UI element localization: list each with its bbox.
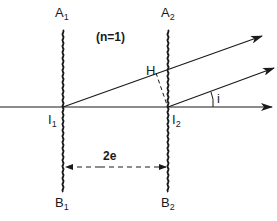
ray-from-i1 [63,36,262,107]
label-h: H [146,63,155,78]
angle-arc-i [211,92,213,107]
label-i1: I1 [48,112,57,129]
diagram-canvas: A1 A2 B1 B2 I1 I2 H i 2e (n=1) [0,0,277,221]
label-b1: B1 [55,195,69,212]
screen-a2-b2 [167,30,168,192]
screen-a1-b1 [62,30,63,192]
label-b2: B2 [161,195,175,212]
label-medium-index: (n=1) [96,30,125,44]
ray-from-i2 [168,68,274,107]
perpendicular-i2-h [156,73,167,105]
label-distance-2e: 2e [103,149,117,163]
label-i2: I2 [172,112,181,129]
label-angle-i: i [217,91,220,106]
label-a1: A1 [55,5,69,22]
label-a2: A2 [161,5,175,22]
